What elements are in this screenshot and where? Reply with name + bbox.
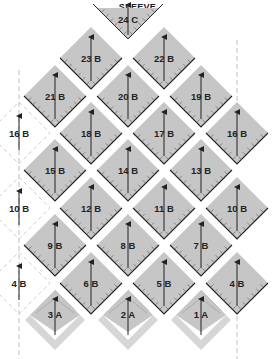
piece-label-2: 2 A [121,309,135,320]
piece-label-12: 12 B [81,203,101,214]
piece-label-14: 14 B [118,165,138,176]
ghost-label-10: 10 B [9,203,29,214]
piece-label-3: 3 A [48,309,62,320]
piece-label-7: 7 B [194,240,209,251]
piece-label-15: 15 B [45,165,65,176]
piece-label-13: 13 B [191,165,211,176]
piece-label-16: 16 B [227,128,247,139]
piece-label-8: 8 B [121,240,136,251]
piece-label-9: 9 B [48,240,63,251]
piece-label-24: 24 C [118,14,138,25]
piece-label-10: 10 B [227,203,247,214]
piece-label-6: 6 B [84,278,99,289]
piece-label-11: 11 B [154,203,174,214]
ghost-label-4: 4 B [12,278,27,289]
piece-label-23: 23 B [81,53,101,64]
sleeve-diagram [0,0,275,359]
piece-label-18: 18 B [81,128,101,139]
piece-label-22: 22 B [154,53,174,64]
piece-label-5: 5 B [157,278,172,289]
piece-label-4: 4 B [230,278,245,289]
piece-label-19: 19 B [191,91,211,102]
ghost-label-16: 16 B [9,128,29,139]
piece-label-20: 20 B [118,91,138,102]
piece-label-17: 17 B [154,128,174,139]
piece-label-1: 1 A [194,309,208,320]
piece-label-21: 21 B [45,91,65,102]
